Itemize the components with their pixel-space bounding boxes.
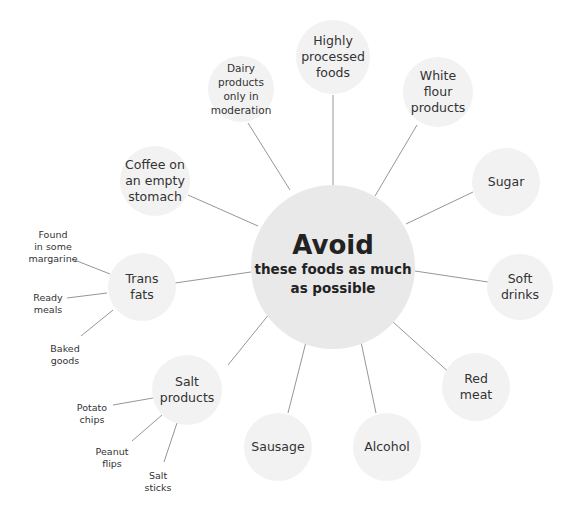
leaf-ready-meals: Ready meals bbox=[28, 292, 68, 316]
leaf-baked-goods: Baked goods bbox=[45, 343, 85, 367]
node-alcohol: Alcohol bbox=[353, 413, 421, 481]
node-label: Red meat bbox=[460, 371, 492, 403]
node-salt-products: Salt products bbox=[152, 355, 222, 425]
node-label: White flour products bbox=[411, 68, 466, 116]
leaf-peanut-flips: Peanut flips bbox=[92, 446, 132, 470]
node-coffee-on-empty-stomach: Coffee on an empty stomach bbox=[120, 146, 190, 216]
node-label: Dairy products only in moderation bbox=[211, 61, 272, 117]
node-highly-processed-foods: Highly processed foods bbox=[296, 20, 370, 94]
node-label: Sausage bbox=[251, 439, 304, 455]
node-label: Coffee on an empty stomach bbox=[125, 157, 185, 205]
node-label: Sugar bbox=[488, 174, 525, 190]
node-label: Salt products bbox=[160, 374, 215, 406]
node-label: Soft drinks bbox=[501, 271, 539, 303]
leaf-found-in-margarine: Found in some margarine bbox=[28, 229, 78, 265]
node-label: Alcohol bbox=[364, 439, 410, 455]
node-sausage: Sausage bbox=[244, 413, 312, 481]
leaf-salt-sticks: Salt sticks bbox=[138, 470, 178, 494]
node-sugar: Sugar bbox=[472, 148, 540, 216]
leaf-potato-chips: Potato chips bbox=[72, 402, 112, 426]
node-white-flour-products: White flour products bbox=[403, 57, 473, 127]
center-subtitle: these foods as much as possible bbox=[254, 260, 411, 298]
node-trans-fats: Trans fats bbox=[108, 253, 176, 321]
center-avoid-node: Avoid these foods as much as possible bbox=[251, 185, 415, 349]
node-label: Highly processed foods bbox=[301, 33, 365, 81]
node-red-meat: Red meat bbox=[442, 353, 510, 421]
node-label: Trans fats bbox=[125, 271, 158, 303]
node-soft-drinks: Soft drinks bbox=[487, 254, 553, 320]
center-title: Avoid bbox=[292, 230, 374, 260]
node-dairy-products: Dairy products only in moderation bbox=[208, 56, 274, 122]
